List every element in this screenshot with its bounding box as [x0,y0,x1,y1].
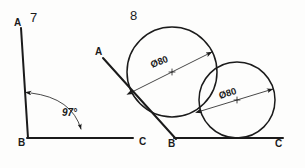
figure-7-label-a: A [14,17,21,28]
figure-8-label-a: A [95,46,102,57]
figure-8-diameter-label-left: Ø80 [149,53,170,70]
figure-8-group: Ø80 Ø80 A B C 8 [95,8,283,149]
figure-8-label-b: B [168,138,175,149]
worksheet-sheet: A B C 97° 7 Ø80 [0,0,305,168]
figure-7-number: 7 [30,10,37,25]
figure-8-diameter-line-left [132,52,212,92]
figure-7-label-c: C [139,136,146,147]
figure-8-number: 8 [130,8,137,23]
drawing-canvas: A B C 97° 7 Ø80 [0,0,305,168]
figure-7-angle-label: 97° [62,107,78,118]
figure-8-label-c: C [275,138,282,149]
figure-7-group: A B C 97° 7 [14,10,146,148]
figure-7-ray-ba [21,28,28,138]
figure-8-ray-ab [103,58,176,139]
figure-7-label-b: B [18,137,25,148]
figure-8-diameter-label-right: Ø80 [217,85,237,101]
